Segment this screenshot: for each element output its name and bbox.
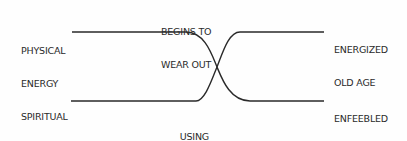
label-begins-to-wear-out: BEGINS TO WEAR OUT [161,4,211,92]
label-line: OLD AGE [334,77,388,88]
label-line: ENFEEBLED [334,113,388,124]
label-using-vortex: USING VORTEX [176,109,213,141]
label-line: PHYSICAL [21,45,65,56]
label-line: ENERGIZED [334,44,388,55]
label-line: USING [176,131,213,141]
label-line: ENERGY [21,78,65,89]
label-line: BEGINS TO [161,26,211,37]
label-spiritual-energy: SPIRITUAL ENERGY [21,89,68,141]
label-enfeebled-old-age: ENFEEBLED OLD AGE [334,91,388,141]
label-line: WEAR OUT [161,59,211,70]
energy-crossover-diagram: PHYSICAL ENERGY SPIRITUAL ENERGY BEGINS … [0,0,407,141]
label-line: SPIRITUAL [21,111,68,122]
